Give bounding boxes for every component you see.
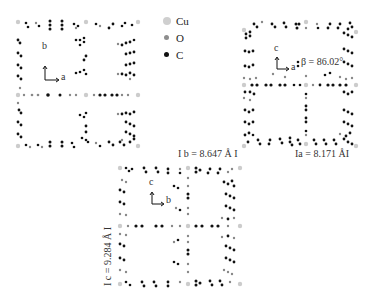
structure-ac-svg bbox=[240, 18, 360, 150]
legend-item-o: O bbox=[163, 29, 189, 46]
legend-item-c: C bbox=[163, 46, 189, 63]
crystal-projection-bc: c b bbox=[116, 164, 244, 290]
c-atom-icon bbox=[164, 52, 169, 57]
legend-label-o: O bbox=[176, 32, 184, 44]
cu-atom-icon bbox=[163, 17, 171, 25]
axes-ab-icon bbox=[43, 66, 59, 82]
lattice-b-label: I b = 8.647 Å I bbox=[178, 148, 238, 159]
axis-label-b: b bbox=[166, 194, 171, 205]
axis-label-a: a bbox=[291, 61, 295, 72]
axes-ac-icon bbox=[275, 57, 289, 71]
lattice-c-label: I c = 9.284 Å I bbox=[102, 227, 113, 286]
structure-ab-svg bbox=[14, 18, 142, 150]
legend-label-c: C bbox=[176, 49, 183, 61]
structure-bc-svg bbox=[116, 164, 244, 290]
axis-label-c: c bbox=[149, 176, 153, 187]
axis-label-a: a bbox=[61, 71, 65, 82]
lattice-a-label: Ia = 8.171 ÅI bbox=[295, 148, 349, 159]
crystal-projection-ac: c a β = 86.02° bbox=[240, 18, 360, 150]
crystal-projection-ab: b a bbox=[14, 18, 142, 150]
legend-item-cu: Cu bbox=[163, 12, 189, 29]
axes-bc-icon bbox=[150, 192, 164, 206]
legend: Cu O C bbox=[163, 12, 189, 63]
o-atom-icon bbox=[164, 35, 169, 40]
axis-label-c: c bbox=[274, 42, 278, 53]
beta-angle-label: β = 86.02° bbox=[301, 56, 343, 67]
axis-label-b: b bbox=[42, 40, 47, 51]
legend-label-cu: Cu bbox=[176, 15, 189, 27]
